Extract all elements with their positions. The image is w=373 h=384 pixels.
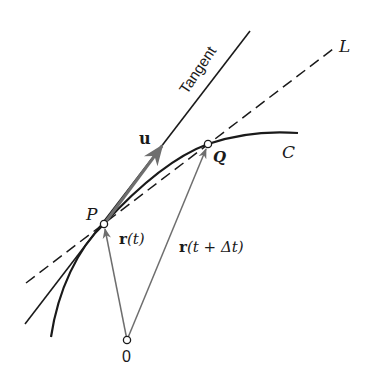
r-t-label: r(t)	[119, 230, 145, 248]
r-t-label-arg: (t)	[127, 230, 145, 248]
point-Q-marker	[204, 140, 211, 147]
tangent-label: Tangent	[175, 42, 219, 96]
tangent-vector-diagram: Tangent L C Q P u r(t) r(t + Δt) 0	[0, 0, 373, 384]
r-t-dt-label: r(t + Δt)	[179, 238, 244, 256]
unit-vector-u-label: u	[139, 129, 151, 148]
unit-vector-u-arrow	[104, 146, 162, 224]
curve-C-label: C	[282, 142, 295, 162]
curve-C	[51, 132, 298, 337]
origin-label: 0	[122, 348, 131, 365]
origin-marker	[123, 336, 130, 343]
point-P-label: P	[85, 204, 98, 224]
line-L-label: L	[338, 36, 350, 56]
point-Q-label: Q	[213, 148, 226, 166]
r-t-dt-label-arg: (t + Δt)	[187, 238, 244, 256]
point-P-marker	[100, 220, 107, 227]
